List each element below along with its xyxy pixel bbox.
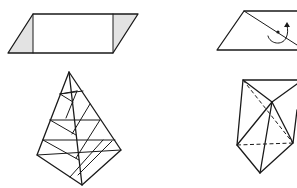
- slice-line-2b: [50, 120, 76, 135]
- apex-to-right: [272, 102, 293, 143]
- apex-to-left: [237, 102, 272, 145]
- apex-to-bottom: [260, 102, 272, 173]
- top-to-apex-right: [272, 84, 297, 102]
- polyhedron-tetrahedra: [237, 80, 297, 173]
- figure-canvas: [0, 0, 297, 188]
- parallelogram-rotation: [217, 11, 297, 50]
- rotation-center-point: [276, 30, 279, 33]
- pyramid-slicing: [37, 72, 121, 185]
- parallelogram-dissection: [8, 14, 138, 53]
- polyhedron-outline: [237, 80, 297, 173]
- arrowhead-icon: [284, 22, 290, 27]
- slice-line-3b: [43, 140, 79, 160]
- top-left-to-apex: [243, 80, 272, 102]
- hidden-edge-diagonal: [243, 80, 293, 143]
- pyramid-outline: [37, 72, 121, 185]
- parallelogram-outline-2: [217, 11, 297, 50]
